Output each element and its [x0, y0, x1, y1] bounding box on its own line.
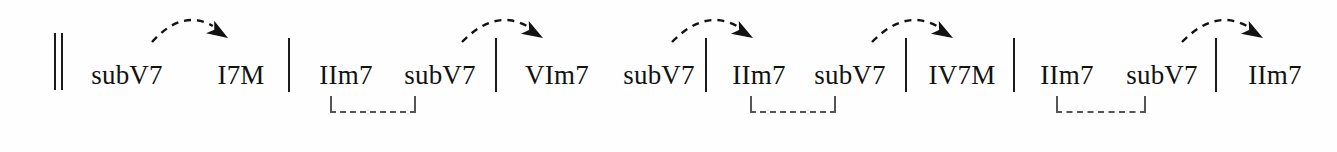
double-barline-stroke-1	[54, 33, 56, 90]
barline-1	[288, 38, 290, 92]
grouping-bracket-3	[1056, 96, 1146, 113]
grouping-bracket-1	[330, 96, 416, 113]
arrow-arc	[152, 20, 213, 42]
barline-2	[495, 38, 497, 92]
double-barline-stroke-2	[61, 33, 63, 90]
chord-symbol: VIm7	[525, 62, 589, 89]
chord-symbol: IIm7	[319, 62, 372, 89]
chord-symbol: subV7	[623, 62, 695, 89]
grouping-bracket-2	[750, 96, 836, 113]
chord-progression-sheet: subV7I7MIIm7subV7VIm7subV7IIm7subV7IV7MI…	[0, 0, 1337, 152]
opening-double-barline	[54, 33, 63, 90]
resolution-arrow-2	[462, 20, 547, 45]
chord-symbol: IIm7	[1040, 62, 1093, 89]
barline-4	[905, 38, 907, 92]
chord-symbol: IIm7	[1248, 62, 1301, 89]
chord-symbol: subV7	[814, 62, 886, 89]
arrowhead-icon	[931, 21, 957, 45]
chord-symbol: I7M	[217, 62, 264, 89]
chord-symbol: IIm7	[732, 62, 785, 89]
bracket-base	[750, 111, 836, 113]
resolution-arrow-3	[672, 20, 757, 45]
resolution-arrow-4	[872, 20, 957, 45]
barline-6	[1215, 38, 1217, 92]
bracket-base	[1056, 111, 1146, 113]
arrowhead-icon	[731, 21, 757, 45]
chord-symbol: subV7	[404, 62, 476, 89]
arrowhead-icon	[1241, 21, 1267, 45]
resolution-arrow-1	[152, 20, 232, 45]
chord-symbol: subV7	[91, 62, 163, 89]
arrowhead-icon	[206, 21, 232, 45]
bracket-base	[330, 111, 416, 113]
arrowhead-icon	[521, 21, 547, 45]
chord-symbol: subV7	[1126, 62, 1198, 89]
barline-3	[705, 38, 707, 92]
resolution-arrow-5	[1182, 20, 1267, 45]
chord-symbol: IV7M	[929, 62, 996, 89]
barline-5	[1013, 38, 1015, 92]
